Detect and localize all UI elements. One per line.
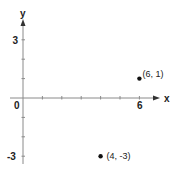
data-point: (6, 1) bbox=[137, 69, 163, 81]
y-axis-arrow-icon bbox=[21, 19, 26, 26]
x-tick-label: 6 bbox=[137, 100, 143, 111]
y-tick-label: 3 bbox=[13, 35, 19, 46]
point-marker-icon bbox=[98, 154, 102, 158]
coordinate-plane: xy 63-30 (6, 1)(4, -3) bbox=[0, 0, 176, 175]
point-label: (6, 1) bbox=[142, 69, 163, 79]
data-point: (4, -3) bbox=[98, 151, 130, 161]
data-points: (6, 1)(4, -3) bbox=[98, 69, 163, 162]
point-label: (4, -3) bbox=[107, 151, 131, 161]
x-axis-label: x bbox=[164, 93, 170, 104]
point-marker-icon bbox=[137, 76, 141, 80]
x-axis-arrow-icon bbox=[153, 96, 160, 101]
axes: xy bbox=[10, 8, 170, 164]
origin-label: 0 bbox=[14, 100, 20, 111]
y-axis-label: y bbox=[20, 8, 26, 19]
y-tick-label: -3 bbox=[7, 151, 16, 162]
